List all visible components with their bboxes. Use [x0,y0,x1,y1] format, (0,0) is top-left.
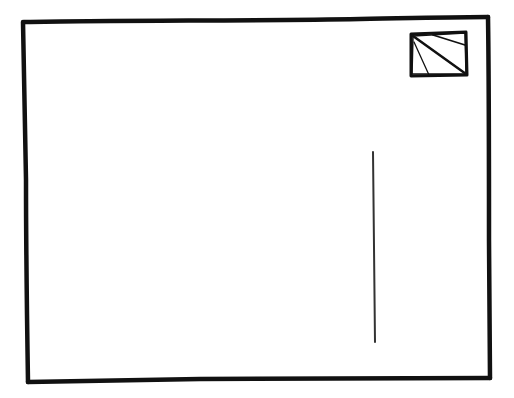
stamp-box [411,32,467,76]
stamp-diagonal-main [413,36,466,74]
stamp-diagonal-top [433,35,465,45]
address-divider-line [373,152,375,342]
postcard-sketch [0,0,514,398]
postcard-border [23,17,490,382]
